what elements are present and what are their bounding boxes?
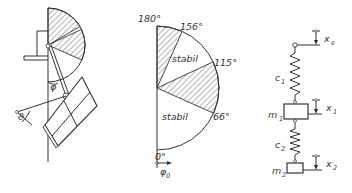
svg-text:e: e: [331, 39, 335, 47]
phi-label: φ: [50, 81, 57, 92]
svg-text:1: 1: [279, 115, 283, 123]
mass-m2: [287, 163, 303, 173]
angle-label-115: 115°: [214, 57, 237, 68]
middle-panel-stability: 180° 156° 115° 66° 0° stabil stabil φ 0: [138, 13, 237, 180]
m2-label: m: [272, 165, 281, 176]
x2-label: x: [325, 158, 332, 169]
svg-text:2: 2: [281, 145, 285, 153]
angle-label-66: 66°: [213, 111, 230, 122]
excitation-point: [293, 43, 297, 47]
bracket: [24, 31, 48, 60]
svg-text:2: 2: [333, 164, 337, 172]
svg-text:1: 1: [333, 108, 337, 116]
x1-label: x: [325, 102, 332, 113]
left-panel-pendulum: φ ϑ: [16, 8, 98, 162]
right-panel-spring-mass: x e c 1 m 1 x 1 c 2 m 2 x 2: [268, 30, 337, 179]
angle-label-0: 0°: [155, 151, 166, 162]
angle-label-180: 180°: [138, 13, 161, 24]
spring-c1: [290, 47, 300, 101]
unstable-sector-66-115: [157, 62, 219, 113]
region-label-stabil-upper: stabil: [172, 53, 198, 64]
xe-label: x: [323, 33, 330, 44]
pivot: [46, 44, 50, 48]
angle-label-156: 156°: [180, 21, 203, 32]
svg-text:1: 1: [281, 78, 285, 86]
svg-text:2: 2: [282, 171, 286, 179]
svg-text:0: 0: [166, 172, 170, 180]
m1-label: m: [268, 109, 277, 120]
theta-label: ϑ: [18, 111, 24, 122]
mass-m1: [284, 104, 308, 119]
region-label-stabil-lower: stabil: [162, 111, 188, 122]
spring-c2: [290, 123, 300, 160]
figure-canvas: φ ϑ 180° 156° 115° 66° 0° stabil stabil: [0, 0, 352, 193]
